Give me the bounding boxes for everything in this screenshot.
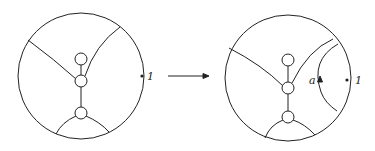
left-edge-upper-left [28,40,76,79]
right-node-bottom [282,111,294,123]
arc-a-label: a [309,74,316,87]
right-node-top [282,54,294,66]
right-edge-bottom-right [293,120,315,135]
diagram-canvas: 1 1 a [0,0,375,151]
left-edge-bottom-left [56,116,76,134]
left-node-top [75,53,87,65]
right-edge-bottom-left [265,120,283,138]
left-boundary-point [140,74,143,77]
left-point-label: 1 [147,70,154,83]
left-edge-upper-right [85,27,120,76]
transition-arrow [168,74,209,79]
right-boundary-point [345,78,348,81]
right-point-label: 1 [355,74,362,87]
right-node-middle [282,82,294,94]
left-node-bottom [75,107,87,119]
right-disk [225,15,351,141]
left-edge-bottom-right [86,116,109,132]
left-node-middle [75,75,87,87]
right-edge-upper-left [229,48,283,86]
left-disk [18,13,144,139]
